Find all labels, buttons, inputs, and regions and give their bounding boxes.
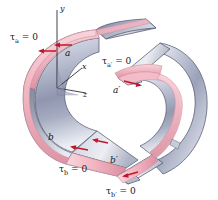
right-channel-section: τa′ = 0 a′ b′ τb′ = 0 [102,43,207,199]
point-b-prime-label: b′ [110,155,118,165]
tau-b-label: τb = 0 [59,164,87,177]
tau-b-prime-label: τb′ = 0 [106,186,136,199]
right-inner-notch [170,139,180,149]
left-channel-section: y x z τa = 0 a b τb = 0 [10,4,156,177]
mechanics-figure: y x z τa = 0 a b τb = 0 [0,0,218,200]
tau-a-prime-label: τa′ = 0 [102,56,132,69]
z-axis-label: z [82,90,88,99]
tau-a-label: τa = 0 [10,32,38,45]
point-a-label: a [65,48,70,58]
point-b-label: b [48,132,54,142]
point-a-prime-label: a′ [113,85,120,95]
y-axis-label: y [59,4,65,13]
x-axis-label: x [82,62,87,71]
